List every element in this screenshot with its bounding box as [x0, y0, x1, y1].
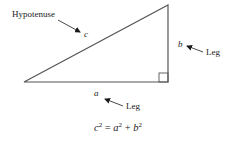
- leg-b-label: Leg: [206, 48, 220, 57]
- leg-b-arrow-icon: [187, 46, 203, 52]
- leg-a-arrow-icon: [105, 99, 123, 106]
- leg-a-variable: a: [94, 89, 99, 98]
- hypotenuse-arrow-icon: [58, 20, 80, 32]
- eq-plus: +: [122, 122, 133, 133]
- pythagorean-equation: c2 = a2 + b2: [0, 122, 236, 133]
- eq-equals: =: [102, 122, 113, 133]
- eq-term2-exponent: 2: [139, 121, 143, 129]
- hypotenuse-variable: c: [84, 30, 88, 39]
- leg-a-label: Leg: [126, 102, 140, 111]
- leg-b-variable: b: [178, 40, 183, 49]
- hypotenuse-label: Hypotenuse: [12, 10, 55, 19]
- right-angle-marker: [159, 73, 168, 82]
